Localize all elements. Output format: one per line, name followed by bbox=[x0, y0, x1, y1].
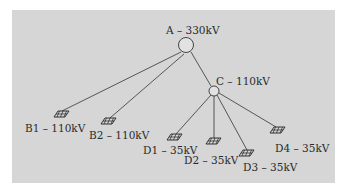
edge-c-d1 bbox=[176, 95, 211, 134]
load-grid-icon-d4 bbox=[270, 127, 285, 133]
node-label-d4: D4 – 35kV bbox=[275, 143, 329, 154]
load-grid-icon-b2 bbox=[101, 118, 116, 124]
edge-c-d3 bbox=[217, 95, 247, 150]
edge-c-d4 bbox=[219, 93, 276, 127]
node-label-a: A – 330kV bbox=[166, 25, 220, 36]
node-label-b1: B1 – 110kV bbox=[25, 123, 85, 134]
edge-a-b2 bbox=[110, 54, 184, 118]
edge-a-c bbox=[191, 52, 211, 86]
node-label-c: C – 110kV bbox=[216, 76, 270, 87]
node-label-b2: B2 – 110kV bbox=[89, 130, 149, 141]
edge-a-b1 bbox=[62, 52, 181, 111]
node-label-d3: D3 – 35kV bbox=[243, 162, 297, 173]
load-grid-icon-d3 bbox=[239, 150, 254, 156]
substation-c-icon bbox=[209, 86, 219, 96]
substation-a-icon bbox=[179, 38, 194, 53]
load-grid-icon-d1 bbox=[167, 134, 182, 140]
load-grid-icon-b1 bbox=[54, 111, 69, 117]
node-label-d2: D2 – 35kV bbox=[184, 155, 238, 166]
load-grid-icon-d2 bbox=[206, 138, 221, 144]
